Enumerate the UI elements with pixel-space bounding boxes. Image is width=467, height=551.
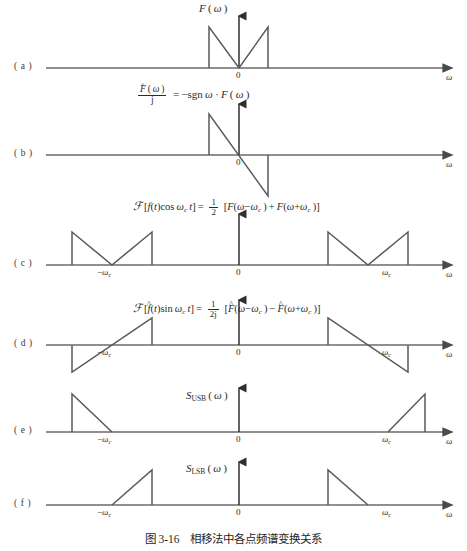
axis-label-b: ω xyxy=(446,159,452,169)
axis-label-a: ω xyxy=(446,72,452,82)
pos-carrier-label-e: ωc xyxy=(382,434,391,445)
panel-b-equation: ^F ( ω ) j = −sgn ω · F ( ω ) xyxy=(137,85,249,105)
panel-label-a: ( a ) xyxy=(14,61,32,71)
pos-carrier-label-d: ωc xyxy=(382,347,391,358)
panel-label-f: ( f ) xyxy=(14,498,31,508)
axis-label-d: ω xyxy=(446,349,452,359)
origin-label-c: 0 xyxy=(236,267,241,277)
panel-c-equation: ℱ [f(t)cos ωc t] = 12 [F(ω−ωc ) + F(ω+ωc… xyxy=(133,198,320,217)
origin-label-f: 0 xyxy=(236,507,241,517)
neg-carrier-label-d: −ωc xyxy=(97,347,111,358)
panel-f-title-sub: LSB xyxy=(192,467,206,476)
figure-container xyxy=(0,0,467,551)
origin-label-e: 0 xyxy=(236,434,241,444)
panel-f-title: SLSB ( ω ) xyxy=(186,462,227,476)
panel-label-e: ( e ) xyxy=(14,425,32,435)
panel-label-c: ( c ) xyxy=(14,258,32,268)
pos-carrier-label-f: ωc xyxy=(382,507,391,518)
neg-carrier-label-f: −ωc xyxy=(97,507,111,518)
panel-e-title: SUSB ( ω ) xyxy=(186,389,228,403)
panel-e-title-sub: USB xyxy=(192,394,207,403)
axis-label-c: ω xyxy=(446,269,452,279)
panel-d-equation: ℱ [^f(t)sin ωc t] = 12j [^F(ω−ωc ) − ^F(… xyxy=(133,300,321,319)
panel-a-title: F ( ω ) xyxy=(199,2,227,14)
waveform-c-left xyxy=(72,232,152,265)
origin-label-b: 0 xyxy=(236,157,241,167)
axis-label-f: ω xyxy=(446,509,452,519)
figure-caption: 图 3-16 相移法中各点频谱变换关系 xyxy=(0,530,467,546)
panel-label-b: ( b ) xyxy=(14,148,33,158)
waveform-e-left xyxy=(72,394,112,432)
origin-label-a: 0 xyxy=(236,70,241,80)
spectrum-diagram xyxy=(0,0,467,551)
waveform-f-right xyxy=(328,470,368,505)
panel-label-d: ( d ) xyxy=(14,338,33,348)
waveform-c-right xyxy=(328,232,408,265)
waveform-e-right xyxy=(388,394,425,432)
neg-carrier-label-e: −ωc xyxy=(97,434,111,445)
neg-carrier-label-c: −ωc xyxy=(97,267,111,278)
pos-carrier-label-c: ωc xyxy=(382,267,391,278)
waveform-f-left xyxy=(112,470,152,505)
axis-label-e: ω xyxy=(446,436,452,446)
origin-label-d: 0 xyxy=(236,347,241,357)
